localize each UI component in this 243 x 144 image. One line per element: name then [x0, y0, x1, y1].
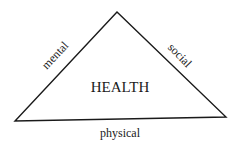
- side-label-social: social: [165, 40, 195, 70]
- health-triangle-diagram: HEALTH mental social physical: [0, 0, 243, 144]
- side-label-mental: mental: [39, 38, 72, 72]
- side-label-physical: physical: [100, 126, 141, 140]
- center-label: HEALTH: [91, 79, 150, 95]
